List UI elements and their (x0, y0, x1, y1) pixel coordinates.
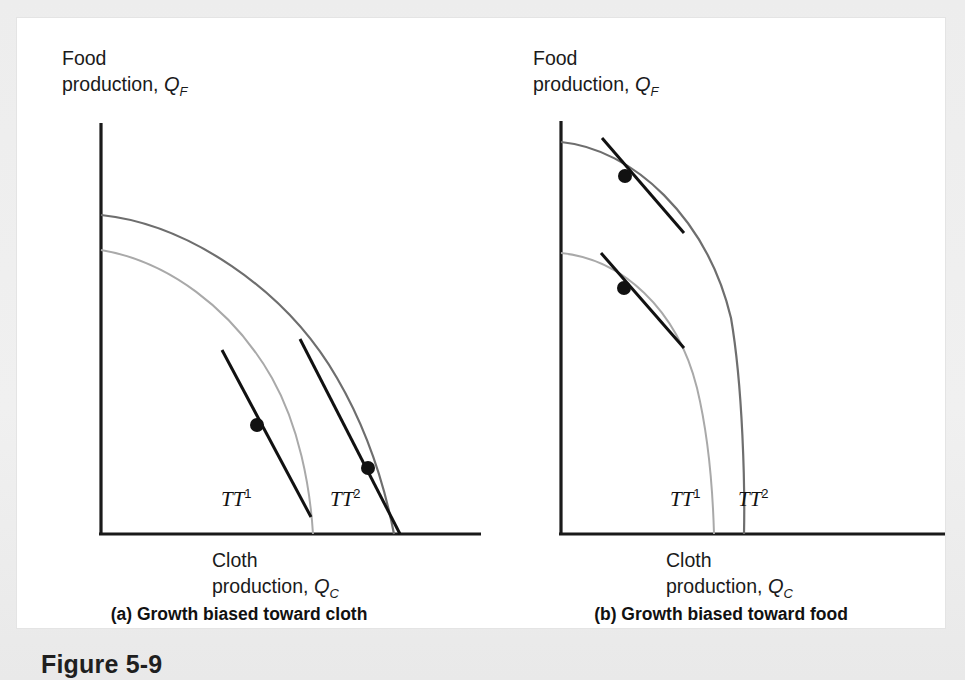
figure-root: Food production, QF (0, 0, 965, 680)
x-axis-title-b: Cloth production, QC (666, 547, 793, 603)
chart-a-svg (17, 18, 481, 628)
curve-label-tt2-a: TT2 (330, 486, 361, 512)
x-axis-title-line1: Cloth (666, 549, 712, 571)
production-point-2-b (618, 169, 632, 183)
x-axis-variable: QC (314, 575, 339, 597)
figure-number: Figure 5-9 (41, 650, 162, 679)
figure-caption-strip: Figure 5-9 (17, 628, 945, 680)
tangent-line-tt2-b (602, 138, 684, 233)
x-axis-title-line2: production, (212, 575, 314, 597)
curve-label-tt1-a: TT1 (221, 486, 252, 512)
axes-b (559, 121, 945, 534)
production-point-2-a (361, 461, 375, 475)
curve-label-tt2-b: TT2 (738, 486, 769, 512)
subcaption-b: (b) Growth biased toward food (489, 604, 953, 625)
chart-panel-b: Food production, QF (481, 18, 945, 628)
axes-a (99, 123, 481, 534)
chart-b-svg (481, 18, 945, 628)
production-point-1-a (250, 418, 264, 432)
x-axis-variable: QC (768, 575, 793, 597)
frontier-curve-tt1-a (101, 250, 313, 534)
production-point-1-b (617, 281, 631, 295)
x-axis-title-line2: production, (666, 575, 768, 597)
x-axis-title-a: Cloth production, QC (212, 547, 339, 603)
chart-panel-a: Food production, QF (17, 18, 481, 628)
figure-panel: Food production, QF (17, 18, 945, 628)
subcaption-a: (a) Growth biased toward cloth (7, 604, 471, 625)
tangent-line-tt1-b (601, 253, 684, 348)
frontier-curves-b (561, 142, 744, 534)
curve-label-tt1-b: TT1 (670, 486, 701, 512)
x-axis-title-line1: Cloth (212, 549, 258, 571)
frontier-curve-tt2-b (561, 142, 744, 534)
tangent-lines-b (601, 138, 684, 348)
